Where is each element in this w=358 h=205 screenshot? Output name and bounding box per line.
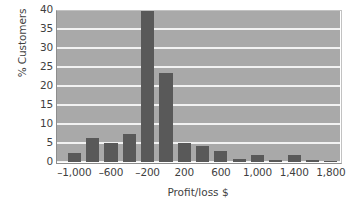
bar: [68, 153, 81, 162]
bar: [141, 10, 154, 162]
y-tick-label: 40: [26, 3, 53, 16]
bar: [159, 73, 172, 162]
y-tick-label: 5: [26, 136, 53, 149]
x-axis-tick-labels: –1,000–600–2002006001,0001,4001,800: [56, 165, 340, 180]
bar: [178, 143, 191, 162]
plot-area: [56, 10, 340, 162]
bar: [233, 159, 246, 162]
bar: [324, 161, 337, 162]
y-tick-label: 35: [26, 22, 53, 35]
y-tick-label: 30: [26, 41, 53, 54]
bars-layer: [56, 10, 340, 162]
y-tick-label: 20: [26, 79, 53, 92]
y-tick-label: 10: [26, 117, 53, 130]
bar: [123, 134, 136, 163]
bar: [196, 146, 209, 162]
bar: [251, 155, 264, 162]
bar: [269, 160, 282, 162]
bar: [288, 155, 301, 162]
x-tick-label: 1,800: [301, 165, 358, 179]
y-axis-tick-labels: 0510152025303540: [26, 10, 53, 162]
bar: [214, 151, 227, 162]
y-tick-label: 25: [26, 60, 53, 73]
x-axis-title: Profit/loss $: [56, 185, 340, 199]
bar: [86, 138, 99, 162]
bar: [104, 143, 117, 162]
histogram-chart: % Customers 0510152025303540 –1,000–600–…: [0, 0, 358, 205]
y-tick-label: 15: [26, 98, 53, 111]
bar: [306, 160, 319, 162]
